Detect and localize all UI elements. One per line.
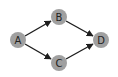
node-a-label: A (15, 35, 22, 46)
node-b-label: B (56, 12, 63, 23)
node-d-label: D (97, 35, 105, 46)
node-c: C (51, 55, 67, 71)
node-d: D (93, 32, 109, 48)
edge-c-d (66, 44, 93, 59)
node-c-label: C (56, 58, 63, 69)
edge-a-b (25, 21, 51, 36)
node-a: A (10, 32, 26, 48)
graph-canvas: A B C D (0, 0, 118, 77)
edges (25, 21, 93, 59)
node-b: B (51, 9, 67, 25)
edge-b-d (66, 21, 93, 36)
edge-a-c (25, 44, 51, 59)
